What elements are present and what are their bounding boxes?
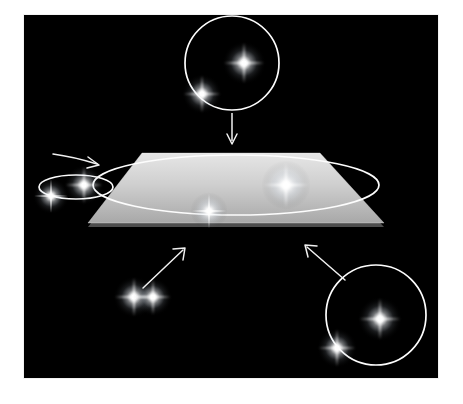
arrow-up-left-to-plane <box>305 245 345 280</box>
reference-plane-group <box>88 153 384 230</box>
star-bottom-right-primary <box>358 297 403 342</box>
system-top-face-on <box>182 16 279 144</box>
star-edge-on-secondary <box>134 278 172 316</box>
scene-svg <box>24 15 438 378</box>
star-plane-primary <box>261 160 310 209</box>
star-plane-secondary <box>190 192 227 229</box>
system-bottom-left-edge-on <box>88 248 185 318</box>
sky-canvas <box>24 15 438 378</box>
star-top-primary <box>222 41 266 85</box>
arrow-right-to-plane <box>53 154 99 168</box>
arrow-down-to-plane <box>227 113 237 144</box>
star-left-secondary <box>33 178 69 214</box>
system-bottom-right-face-on <box>305 245 426 368</box>
star-bottom-right-secondary <box>317 328 357 368</box>
star-top-secondary <box>182 74 222 114</box>
star-left-primary <box>64 165 104 205</box>
figure-root: Binary star orbital inclination relative… <box>0 0 463 404</box>
system-left-inclined <box>33 154 113 214</box>
